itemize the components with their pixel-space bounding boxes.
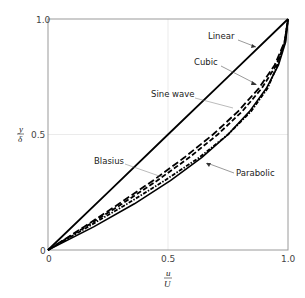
y-tick-0.5: 0.5 — [31, 130, 45, 140]
y-label-numerator: y — [18, 124, 23, 134]
leader-cubic — [221, 66, 256, 84]
x-tick-0.5: 0.5 — [161, 254, 175, 264]
y-label-denominator: δ — [18, 134, 23, 144]
leader-parabolic — [207, 163, 234, 173]
y-tick-1.0: 1.0 — [36, 15, 51, 25]
x-label-denominator: U — [164, 279, 171, 289]
arrow-linear — [251, 44, 256, 48]
arrow-parabolic — [206, 163, 211, 167]
x-tick-0: 0 — [46, 254, 52, 264]
x-tick-1.0: 1.0 — [281, 254, 296, 264]
x-label-numerator: u — [166, 268, 171, 278]
label-parabolic: Parabolic — [236, 168, 275, 178]
label-sine-wave: Sine wave — [151, 89, 195, 99]
label-linear: Linear — [208, 31, 235, 41]
velocity-profile-chart: 1.0 0.5 0 0 0.5 1.0 y δ u U Linear Cubic… — [0, 0, 305, 298]
label-cubic: Cubic — [194, 57, 218, 67]
label-blasius: Blasius — [94, 156, 125, 166]
arrow-cubic — [251, 81, 257, 85]
